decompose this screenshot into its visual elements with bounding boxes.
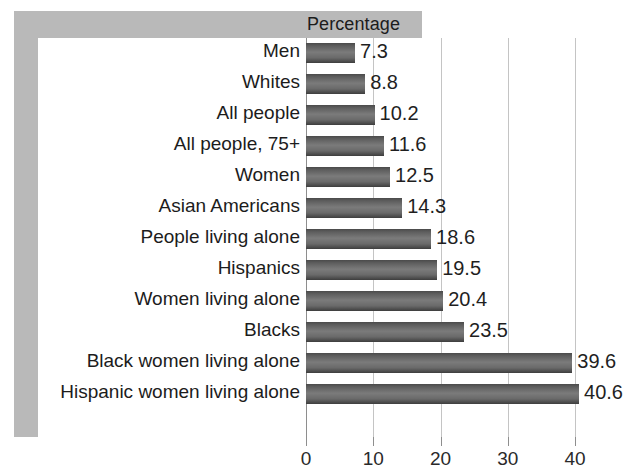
axis-tick xyxy=(373,437,374,446)
bar-value-label: 18.6 xyxy=(436,226,475,249)
axis-tick xyxy=(508,437,509,446)
bar-row: Women living alone20.4 xyxy=(306,286,575,317)
category-label-wrapper: Women living alone xyxy=(0,286,300,317)
bar-row: All people10.2 xyxy=(306,100,575,131)
category-label-wrapper: Women xyxy=(0,162,300,193)
category-label-wrapper: Whites xyxy=(0,69,300,100)
category-label: Women living alone xyxy=(0,288,300,310)
axis-tick xyxy=(575,437,576,446)
category-label-wrapper: All people xyxy=(0,100,300,131)
bar-value-label: 23.5 xyxy=(469,319,508,342)
category-label-wrapper: Black women living alone xyxy=(0,348,300,379)
bar xyxy=(306,229,431,249)
bar xyxy=(306,260,437,280)
bar-value-label: 10.2 xyxy=(380,102,419,125)
bar xyxy=(306,105,375,125)
axis-tick xyxy=(441,437,442,446)
category-label: All people, 75+ xyxy=(0,133,300,155)
bar-value-label: 40.6 xyxy=(584,381,623,404)
axis-tick-label: 30 xyxy=(478,448,538,470)
category-label: All people xyxy=(0,102,300,124)
axis-tick-label: 0 xyxy=(276,448,336,470)
category-label: Black women living alone xyxy=(0,350,300,372)
plot-area: 010203040Men7.3Whites8.8All people10.2Al… xyxy=(306,38,575,437)
bar xyxy=(306,384,579,404)
bar-value-label: 19.5 xyxy=(442,257,481,280)
category-label: Blacks xyxy=(0,319,300,341)
category-label-wrapper: All people, 75+ xyxy=(0,131,300,162)
bar-row: All people, 75+11.6 xyxy=(306,131,575,162)
bar xyxy=(306,74,365,94)
axis-tick-label: 20 xyxy=(411,448,471,470)
bar xyxy=(306,43,355,63)
axis-tick xyxy=(306,437,307,446)
category-label-wrapper: People living alone xyxy=(0,224,300,255)
bar xyxy=(306,167,390,187)
bar xyxy=(306,136,384,156)
bar-value-label: 11.6 xyxy=(389,133,426,156)
bar-row: Hispanic women living alone40.6 xyxy=(306,379,575,410)
bar-value-label: 12.5 xyxy=(395,164,434,187)
bar-value-label: 20.4 xyxy=(448,288,487,311)
bar-value-label: 39.6 xyxy=(577,350,616,373)
category-label: Whites xyxy=(0,71,300,93)
bar-row: People living alone18.6 xyxy=(306,224,575,255)
bar-row: Black women living alone39.6 xyxy=(306,348,575,379)
category-label: Hispanic women living alone xyxy=(0,381,300,403)
category-label-wrapper: Blacks xyxy=(0,317,300,348)
axis-tick-label: 10 xyxy=(343,448,403,470)
bar-value-label: 7.3 xyxy=(360,40,388,63)
category-label-wrapper: Hispanic women living alone xyxy=(0,379,300,410)
category-label-wrapper: Men xyxy=(0,38,300,69)
axis-tick-label: 40 xyxy=(545,448,605,470)
chart-title: Percentage xyxy=(14,11,422,38)
category-label: Hispanics xyxy=(0,257,300,279)
bar-chart-figure: Percentage 010203040Men7.3Whites8.8All p… xyxy=(0,0,626,470)
bar xyxy=(306,198,402,218)
bar-row: Hispanics19.5 xyxy=(306,255,575,286)
bar-value-label: 8.8 xyxy=(370,71,398,94)
bar-row: Women12.5 xyxy=(306,162,575,193)
bar-value-label: 14.3 xyxy=(407,195,446,218)
bar xyxy=(306,353,572,373)
bar-row: Asian Americans14.3 xyxy=(306,193,575,224)
bar-row: Whites8.8 xyxy=(306,69,575,100)
gridline xyxy=(575,38,576,437)
category-label: People living alone xyxy=(0,226,300,248)
bar-row: Blacks23.5 xyxy=(306,317,575,348)
bar xyxy=(306,322,464,342)
category-label: Asian Americans xyxy=(0,195,300,217)
bar xyxy=(306,291,443,311)
category-label-wrapper: Asian Americans xyxy=(0,193,300,224)
bar-row: Men7.3 xyxy=(306,38,575,69)
category-label: Women xyxy=(0,164,300,186)
category-label-wrapper: Hispanics xyxy=(0,255,300,286)
category-label: Men xyxy=(0,40,300,62)
